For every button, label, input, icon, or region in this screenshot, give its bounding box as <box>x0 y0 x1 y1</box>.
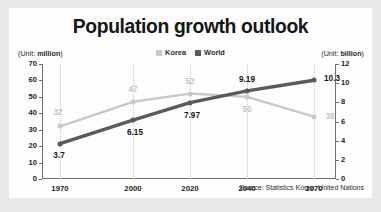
data-point-korea-1970 <box>58 124 63 129</box>
x-axis-label-2000: 2000 <box>124 184 141 193</box>
plot-area: 706050403020100 121086420 19702000202020… <box>42 64 336 179</box>
data-point-world-2000 <box>131 118 136 123</box>
data-point-world-2070 <box>312 78 317 83</box>
left-axis-unit-value: million <box>37 49 60 58</box>
chart-legend: KoreaWorld <box>9 48 372 57</box>
right-tick-mark <box>336 102 339 103</box>
right-axis-unit-suffix: ) <box>362 49 364 58</box>
data-point-korea-2070 <box>312 114 317 119</box>
right-tick-mark <box>336 160 339 161</box>
right-tick-mark <box>336 141 339 142</box>
chart-title: Population growth outlook <box>24 14 358 38</box>
right-tick-mark <box>336 179 339 180</box>
value-label-korea-2020: 52 <box>185 78 194 86</box>
legend-label: World <box>204 48 225 57</box>
legend-swatch-icon <box>156 50 162 56</box>
value-label-korea-2070: 38 <box>325 113 334 121</box>
value-label-world-2000: 6.15 <box>127 129 143 137</box>
left-axis-unit-label: (Unit: million) <box>18 49 63 58</box>
x-axis-label-2020: 2020 <box>181 184 198 193</box>
x-axis-label-1970: 1970 <box>51 184 68 193</box>
right-axis-tick-label-8: 8 <box>341 98 345 106</box>
value-label-korea-2000: 47 <box>128 86 137 94</box>
value-label-world-2040: 9.19 <box>239 76 255 84</box>
legend-label: Korea <box>165 48 186 57</box>
screenshot-frame: Population growth outlook (Unit: million… <box>0 0 381 212</box>
value-label-korea-1970: 32 <box>53 109 62 117</box>
left-axis-tick-label-70: 70 <box>29 60 37 68</box>
right-axis-tick-label-4: 4 <box>341 137 345 145</box>
data-point-korea-2040 <box>245 94 250 99</box>
right-axis-tick-label-2: 2 <box>341 156 345 164</box>
right-axis-tick-label-0: 0 <box>341 175 345 183</box>
data-point-world-2020 <box>188 100 193 105</box>
left-axis-tick-label-40: 40 <box>29 109 37 117</box>
right-tick-mark <box>336 122 339 123</box>
right-axis-tick-label-12: 12 <box>341 60 349 68</box>
legend-swatch-icon <box>195 50 201 56</box>
left-axis-unit-suffix: ) <box>60 49 62 58</box>
left-axis-tick-label-10: 10 <box>29 159 37 167</box>
data-point-korea-2020 <box>188 91 193 96</box>
legend-item-world: World <box>195 48 225 57</box>
left-axis-unit-prefix: (Unit: <box>18 49 37 58</box>
right-axis-tick-label-10: 10 <box>341 79 349 87</box>
right-axis-tick-label-6: 6 <box>341 118 345 126</box>
value-label-korea-2040: 50 <box>242 106 251 114</box>
right-axis-unit-prefix: (Unit: <box>321 49 340 58</box>
left-axis-tick-label-60: 60 <box>29 76 37 84</box>
right-axis-unit-value: billion <box>340 49 361 58</box>
value-label-world-2070: 10.3 <box>324 75 340 83</box>
left-axis-tick-label-30: 30 <box>29 126 37 134</box>
chart-card: Population growth outlook (Unit: million… <box>9 8 372 198</box>
left-axis-tick-label-20: 20 <box>29 142 37 150</box>
source-note: Source: Statistics Korea, United Nations <box>239 184 364 191</box>
left-axis-tick-label-50: 50 <box>29 93 37 101</box>
right-tick-mark <box>336 64 339 65</box>
data-point-world-1970 <box>58 141 63 146</box>
value-label-world-1970: 3.7 <box>53 152 64 160</box>
legend-item-korea: Korea <box>156 48 186 57</box>
left-axis-tick-label-0: 0 <box>33 175 37 183</box>
right-axis-unit-label: (Unit: billion) <box>321 49 364 58</box>
data-point-world-2040 <box>245 88 250 93</box>
left-tick-mark <box>39 179 42 180</box>
value-label-world-2020: 7.97 <box>184 112 200 120</box>
data-point-korea-2000 <box>131 99 136 104</box>
